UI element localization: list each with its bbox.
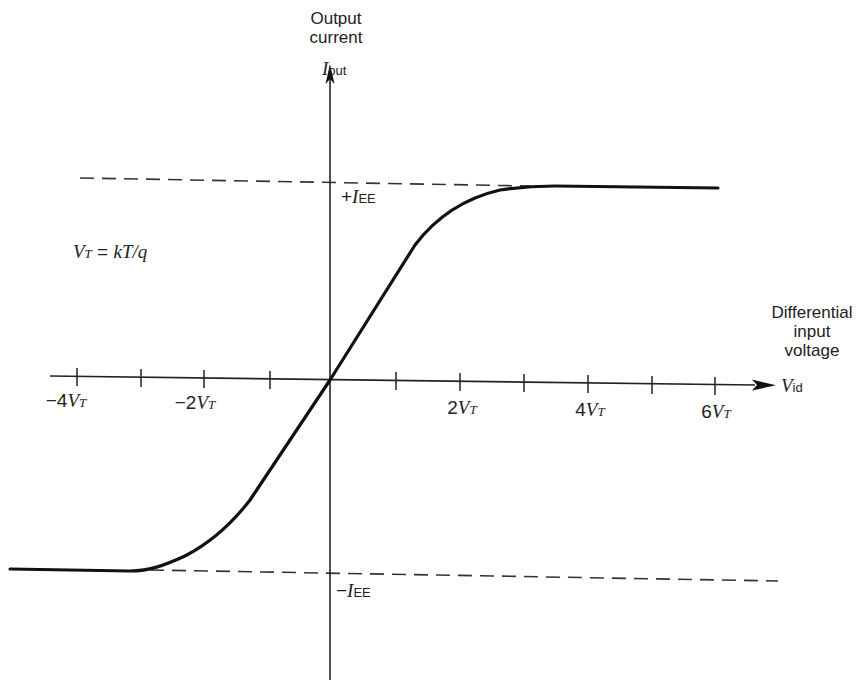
x-axis-symbol-sub: id xyxy=(793,380,803,395)
y-axis-symbol-sub: out xyxy=(328,63,346,78)
x-axis-caption-line2: input xyxy=(762,322,862,341)
x-axis-caption-line1: Differential xyxy=(762,303,862,322)
upper-asymptote-line xyxy=(80,178,530,186)
tick-label-2: 2VT xyxy=(447,397,476,419)
y-axis-caption: Output current xyxy=(296,9,376,47)
x-axis-caption: Differential input voltage xyxy=(762,303,862,360)
x-axis-caption-line3: voltage xyxy=(762,341,862,360)
x-axis-ticks xyxy=(77,368,715,395)
upper-limit-label: +IEE xyxy=(341,186,376,208)
x-axis-arrowhead-icon xyxy=(752,380,776,391)
x-axis-symbol: Vid xyxy=(781,375,803,397)
y-axis-caption-line1: Output xyxy=(296,9,376,28)
x-axis-symbol-main: V xyxy=(781,375,793,396)
tick-label-minus-2: −2VT xyxy=(175,392,216,414)
lower-limit-label: −IEE xyxy=(336,580,371,602)
transfer-characteristic-figure: Output current Iout Differential input v… xyxy=(0,0,863,691)
tick-label-6: 6VT xyxy=(701,401,730,423)
tick-label-4: 4VT xyxy=(575,399,604,421)
y-axis-caption-line2: current xyxy=(296,28,376,47)
y-axis-symbol: Iout xyxy=(322,58,346,80)
x-axis-line xyxy=(50,376,755,385)
thermal-voltage-equation: VT = kT/q xyxy=(73,241,147,263)
figure-canvas xyxy=(0,0,863,691)
lower-asymptote-line xyxy=(150,570,778,581)
tick-label-minus-4: −4VT xyxy=(46,390,87,412)
